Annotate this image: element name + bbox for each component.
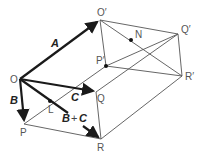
label-vector-BplusC-plus: + <box>71 112 77 124</box>
label-R: R <box>97 142 104 153</box>
label-Q-prime: Q′ <box>181 24 191 35</box>
vector-B-plus-C-part2 <box>83 126 98 137</box>
label-vector-C: C <box>71 91 80 103</box>
edges <box>24 20 182 139</box>
label-N: N <box>135 29 142 40</box>
point-L-dot <box>48 99 52 103</box>
label-vector-BplusC-B: B <box>62 112 70 124</box>
label-vector-A: A <box>50 37 59 49</box>
label-R-prime: R′ <box>185 71 194 82</box>
vector-C <box>20 79 93 91</box>
vector-B-plus-C-part1 <box>20 79 68 113</box>
edge-R-Rprime <box>101 76 182 139</box>
edge-Qprime-Rprime <box>178 34 182 76</box>
label-O: O <box>10 74 18 85</box>
edge-Q-Qprime <box>96 34 178 92</box>
label-Q: Q <box>97 93 105 104</box>
point-N-dot <box>129 38 133 42</box>
label-P-prime: P′ <box>96 55 105 66</box>
label-vector-B: B <box>10 94 18 106</box>
edge-Pprime-Rprime <box>106 66 182 76</box>
label-P: P <box>20 127 27 138</box>
point-Pprime-dot <box>104 64 108 68</box>
vector-A <box>20 22 97 79</box>
label-O-prime: O′ <box>97 7 107 18</box>
label-vector-BplusC-C: C <box>79 112 88 124</box>
vector-B <box>20 79 24 120</box>
label-L: L <box>48 104 54 115</box>
parallelepiped-diagram: O O′ P Q R P′ Q′ R′ N L A B C B + C <box>0 0 202 159</box>
